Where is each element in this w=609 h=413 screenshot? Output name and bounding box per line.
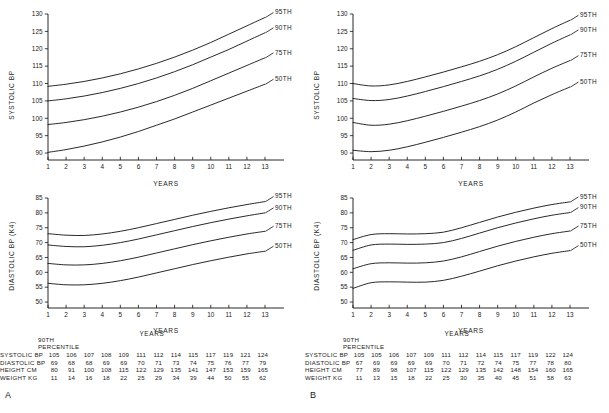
x-tick-label: 11	[226, 163, 233, 170]
y-tick-label: 120	[337, 45, 348, 52]
table-cell: 80	[45, 366, 62, 374]
diastolic-chart-a-svg: 5055606570758085 12345678910111213 95TH9…	[0, 188, 304, 338]
percentile-leader-line	[266, 226, 274, 231]
y-tick-label: 60	[35, 269, 43, 276]
table-cell: 69	[420, 359, 437, 367]
x-tick-label: 13	[261, 311, 269, 318]
table-cell: 55	[237, 374, 254, 382]
table-header-90th: 90TH	[38, 336, 79, 343]
percentile-label-75th: 75TH	[580, 222, 597, 229]
table-cell: 109	[115, 351, 132, 359]
x-tick-label: 7	[460, 311, 464, 318]
table-row: SYSTOLIC BP10510510610710911111211411511…	[305, 351, 577, 359]
table-cell: 74	[490, 359, 507, 367]
percentile-label-95th: 95TH	[580, 193, 597, 200]
table-cell: 63	[559, 374, 576, 382]
percentile-curve-95th	[353, 202, 570, 240]
table-row: DIASTOLIC BP69686869697071737475767779	[0, 359, 272, 367]
panel-letter-b: B	[310, 390, 317, 400]
y-tick-label: 115	[32, 62, 43, 69]
x-tick-group: 12345678910111213	[351, 305, 574, 318]
y-tick-group: 9095100105110115120125130	[32, 10, 48, 156]
table-cell: 89	[368, 366, 385, 374]
y-tick-label: 55	[340, 283, 348, 290]
percentile-label-95th: 95TH	[580, 11, 597, 18]
table-cell: 119	[524, 351, 541, 359]
x-tick-label: 8	[173, 163, 177, 170]
y-tick-label: 105	[32, 97, 43, 104]
percentile-curve-95th	[353, 20, 570, 86]
systolic-chart-a-svg: 9095100105110115120125130 12345678910111…	[0, 0, 304, 192]
table-cell: 91	[63, 366, 80, 374]
y-tick-label: 65	[340, 254, 348, 261]
y-tick-label: 65	[35, 254, 43, 261]
percentile-label-50th: 50TH	[580, 78, 597, 85]
table-header-percentile: PERCENTILE	[38, 343, 79, 350]
table-cell: 129	[455, 366, 472, 374]
x-tick-group: 12345678910111213	[46, 305, 269, 318]
percentile-label-50th: 50TH	[580, 241, 597, 248]
percentile-label-50th: 50TH	[275, 242, 292, 249]
table-cell: 153	[219, 366, 236, 374]
table-cell: 69	[385, 359, 402, 367]
y-tick-label: 75	[35, 224, 43, 231]
table-row-label: WEIGHT KG	[305, 374, 350, 382]
table-cell: 129	[150, 366, 167, 374]
table-cell: 67	[350, 359, 367, 367]
table-cell: 105	[368, 351, 385, 359]
table-cell: 71	[150, 359, 167, 367]
x-tick-label: 4	[405, 163, 409, 170]
percentile-curve-90th	[48, 33, 265, 101]
table-cell: 58	[542, 374, 559, 382]
table-cell: 108	[98, 366, 115, 374]
y-tick-label: 70	[35, 239, 43, 246]
table-cell: 68	[63, 359, 80, 367]
table-cell: 75	[507, 359, 524, 367]
table-cell: 11	[350, 374, 367, 382]
x-tick-label: 1	[46, 163, 50, 170]
x-tick-label: 8	[173, 311, 177, 318]
y-tick-label: 80	[340, 209, 348, 216]
table-cell: 115	[420, 366, 437, 374]
table-cell: 15	[385, 374, 402, 382]
table-cell: 69	[98, 359, 115, 367]
y-tick-label: 105	[337, 97, 348, 104]
y-tick-label: 50	[340, 298, 348, 305]
curve-group	[48, 202, 265, 285]
table-header-90th: 90TH	[343, 336, 384, 343]
y-tick-label: 100	[337, 115, 348, 122]
y-tick-label: 60	[340, 269, 348, 276]
percentile-label-95th: 95TH	[275, 192, 292, 199]
table-cell: 45	[507, 374, 524, 382]
y-tick-label: 115	[337, 62, 348, 69]
percentile-leader-line	[571, 197, 579, 202]
table-cell: 107	[403, 351, 420, 359]
table-cell: 70	[437, 359, 454, 367]
x-tick-label: 2	[369, 163, 373, 170]
table-cell: 34	[167, 374, 184, 382]
table-cell: 16	[80, 374, 97, 382]
table-cell: 115	[490, 351, 507, 359]
percentile-curve-50th	[48, 84, 265, 152]
percentile-label-90th: 90TH	[580, 26, 597, 33]
table-cell: 50	[219, 374, 236, 382]
percentile-leader-line	[266, 197, 274, 202]
table-cell: 122	[542, 351, 559, 359]
y-axis-title: DIASTOLIC BP (K4)	[313, 221, 321, 291]
table-cell: 121	[237, 351, 254, 359]
y-tick-label: 125	[32, 28, 43, 35]
table-cell: 77	[237, 359, 254, 367]
table-cell: 105	[350, 351, 367, 359]
percentile-curve-90th	[48, 213, 265, 247]
percentile-label-90th: 90TH	[275, 204, 292, 211]
table-cell: 119	[219, 351, 236, 359]
percentile-curve-75th	[48, 58, 265, 125]
diastolic-chart-b-svg: 5055606570758085 12345678910111213 95TH9…	[305, 188, 609, 338]
x-tick-label: 13	[261, 163, 269, 170]
table-header-block: 90TH PERCENTILE	[38, 336, 79, 351]
x-tick-label: 9	[191, 311, 195, 318]
x-tick-label: 8	[478, 311, 482, 318]
table-cell: 18	[403, 374, 420, 382]
table-cell: 13	[368, 374, 385, 382]
x-tick-label: 10	[207, 163, 215, 170]
